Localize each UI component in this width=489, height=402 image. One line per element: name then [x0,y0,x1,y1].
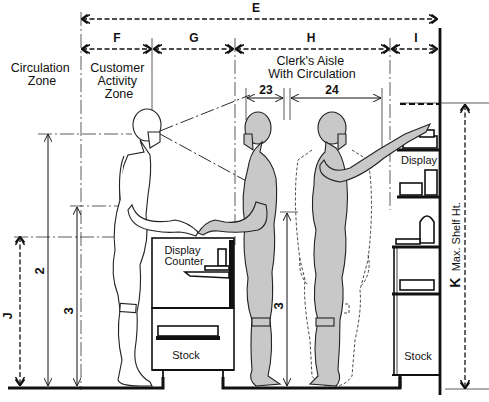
display-label-shelving: Display [401,154,438,166]
dimension-G: G [154,31,233,49]
display-counter-label: Display Counter [164,244,203,267]
dimension-H: H [236,31,389,49]
dim-label-K: K [447,278,463,288]
svg-text:3: 3 [271,302,286,309]
dimension-F: F [82,31,151,49]
wall-shelving: Display Stock [392,130,440,388]
stock-label-shelving: Stock [404,350,432,362]
display-counter: Display Counter Stock [152,238,234,378]
customer-activity-zone-label: Customer Activity Zone [90,61,148,101]
dimension-E: E [82,1,437,19]
svg-text:23: 23 [259,83,273,97]
dimension-I: I [392,31,437,49]
dim-label-H: H [307,31,316,45]
svg-text:24: 24 [325,83,339,97]
svg-text:K Max. Shelf Ht.: K Max. Shelf Ht. [447,202,463,288]
svg-text:3: 3 [61,307,76,314]
clerks-aisle-label: Clerk's Aisle With Circulation [268,54,356,81]
max-shelf-label: Max. Shelf Ht. [450,202,462,271]
stock-label-counter: Stock [172,349,200,361]
circulation-zone-label: Circulation Zone [11,61,74,88]
sight-line-lower [160,134,250,183]
dim-label-I: I [414,31,417,45]
diagram-canvas: E F G H I Circulation Zone Customer Acti… [0,0,489,402]
dim-label-G: G [189,31,198,45]
dim-label-E: E [252,1,260,15]
dim-label-F: F [113,31,120,45]
svg-text:2: 2 [32,267,47,274]
svg-text:J: J [0,312,15,319]
sight-line-upper [160,95,250,131]
